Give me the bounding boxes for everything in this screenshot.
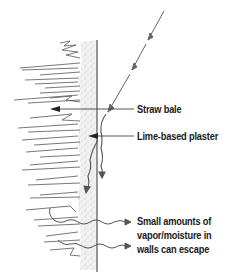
moisture-label-line-1: Small amounts of: [137, 214, 211, 228]
straw-bale-wall-diagram: Straw bale Lime-based plaster Small amou…: [0, 0, 229, 276]
straw-bale-label: Straw bale: [137, 102, 181, 116]
moisture-label-line-3: walls can escape: [137, 242, 209, 256]
lime-plaster-label: Lime-based plaster: [137, 129, 218, 143]
rain-arrow-icon: [108, 11, 164, 112]
straw-bale-strands: [14, 41, 80, 256]
lime-plaster-layer: [78, 40, 97, 272]
moisture-label-line-2: vapor/moisture in: [137, 228, 212, 242]
